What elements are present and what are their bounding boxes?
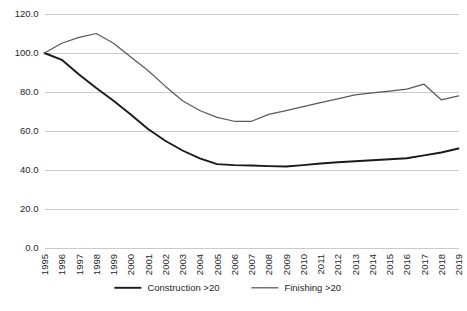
x-tick-label: 2001 — [143, 254, 154, 275]
x-tick-label: 1995 — [39, 254, 50, 275]
x-tick-label: 1996 — [56, 254, 67, 275]
x-tick-label: 1999 — [108, 254, 119, 275]
y-tick-label: 60.0 — [20, 125, 39, 136]
x-tick-label: 2004 — [194, 254, 205, 275]
x-tick-label: 2016 — [401, 254, 412, 275]
x-tick-label: 2007 — [246, 254, 257, 275]
legend-label-finishing: Finishing >20 — [284, 282, 341, 293]
x-tick-label: 2012 — [332, 254, 343, 275]
x-tick-label: 2019 — [453, 254, 464, 275]
x-tick-label: 2018 — [436, 254, 447, 275]
x-tick-label: 2000 — [125, 254, 136, 275]
x-tick-label: 2015 — [384, 254, 395, 275]
x-tick-label: 1997 — [74, 254, 85, 275]
y-tick-label: 40.0 — [20, 164, 39, 175]
x-tick-label: 2017 — [419, 254, 430, 275]
x-tick-label: 2010 — [298, 254, 309, 275]
x-tick-label: 2008 — [263, 254, 274, 275]
x-tick-label: 2005 — [212, 254, 223, 275]
x-tick-label: 2002 — [160, 254, 171, 275]
y-tick-label: 20.0 — [20, 203, 39, 214]
line-chart: 0.020.040.060.080.0100.0120.0 1995199619… — [0, 0, 467, 311]
chart-svg: 0.020.040.060.080.0100.0120.0 1995199619… — [0, 0, 467, 311]
x-tick-label: 2009 — [281, 254, 292, 275]
x-tick-label: 2013 — [350, 254, 361, 275]
y-tick-label: 0.0 — [25, 242, 38, 253]
x-tick-label: 2014 — [367, 254, 378, 275]
x-tick-label: 2006 — [229, 254, 240, 275]
y-tick-label: 100.0 — [15, 47, 39, 58]
legend-label-construction: Construction >20 — [147, 282, 219, 293]
y-tick-label: 80.0 — [20, 86, 39, 97]
x-tick-label: 1998 — [91, 254, 102, 275]
x-tick-label: 2011 — [315, 254, 326, 274]
y-tick-label: 120.0 — [15, 8, 39, 19]
x-tick-label: 2003 — [177, 254, 188, 275]
